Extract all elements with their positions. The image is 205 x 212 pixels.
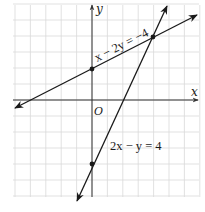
line-x-minus-2y-eq-neg4	[15, 15, 197, 108]
point-intersection	[151, 35, 156, 40]
origin-label: O	[94, 105, 103, 118]
coordinate-graph: y x O x − 2y = −4 2x − y = 4	[0, 0, 205, 212]
point-y-intercept-line2	[90, 162, 95, 167]
x-axis-label: x	[191, 85, 198, 99]
point-y-intercept-line1	[90, 67, 95, 72]
equation-label-line2: 2x − y = 4	[110, 139, 162, 153]
y-axis-label: y	[95, 2, 103, 16]
